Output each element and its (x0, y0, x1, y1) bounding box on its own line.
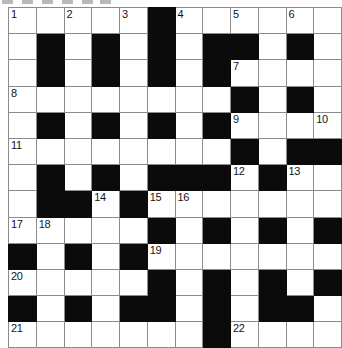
crossword-cell[interactable] (36, 296, 64, 322)
crossword-cell[interactable]: 14 (92, 191, 120, 217)
crossword-cell[interactable] (175, 269, 203, 295)
crossword-cell[interactable] (147, 138, 175, 164)
crossword-cell[interactable] (314, 191, 342, 217)
crossword-cell[interactable] (64, 34, 92, 60)
crossword-cell[interactable] (203, 191, 231, 217)
crossword-cell[interactable] (286, 191, 314, 217)
crossword-cell[interactable] (92, 217, 120, 243)
crossword-cell[interactable] (64, 86, 92, 112)
crossword-cell[interactable]: 21 (9, 322, 37, 348)
crossword-cell[interactable] (36, 138, 64, 164)
crossword-cell[interactable] (36, 269, 64, 295)
crossword-cell[interactable] (175, 112, 203, 138)
crossword-cell[interactable] (258, 138, 286, 164)
crossword-cell[interactable] (231, 217, 259, 243)
crossword-cell[interactable] (120, 60, 148, 86)
crossword-cell[interactable]: 11 (9, 138, 37, 164)
crossword-cell[interactable] (36, 8, 64, 34)
crossword-cell[interactable] (231, 296, 259, 322)
crossword-cell[interactable] (314, 34, 342, 60)
crossword-cell[interactable] (9, 191, 37, 217)
crossword-cell[interactable]: 17 (9, 217, 37, 243)
crossword-cell[interactable] (120, 86, 148, 112)
crossword-cell[interactable] (92, 86, 120, 112)
crossword-cell[interactable] (314, 60, 342, 86)
crossword-cell[interactable]: 4 (175, 8, 203, 34)
crossword-cell[interactable]: 8 (9, 86, 37, 112)
crossword-cell[interactable] (120, 34, 148, 60)
crossword-cell[interactable] (286, 269, 314, 295)
crossword-cell[interactable] (175, 322, 203, 348)
crossword-cell[interactable] (175, 60, 203, 86)
crossword-cell[interactable] (175, 86, 203, 112)
crossword-cell[interactable] (64, 217, 92, 243)
crossword-cell[interactable] (92, 8, 120, 34)
crossword-cell[interactable] (258, 60, 286, 86)
crossword-cell[interactable]: 7 (231, 60, 259, 86)
crossword-cell[interactable]: 22 (231, 322, 259, 348)
crossword-cell[interactable]: 5 (231, 8, 259, 34)
crossword-cell[interactable] (175, 217, 203, 243)
crossword-cell[interactable] (203, 243, 231, 269)
crossword-cell[interactable]: 18 (36, 217, 64, 243)
crossword-cell[interactable] (92, 322, 120, 348)
crossword-cell[interactable] (258, 191, 286, 217)
crossword-cell[interactable] (9, 60, 37, 86)
crossword-cell[interactable] (314, 322, 342, 348)
crossword-cell[interactable] (64, 269, 92, 295)
crossword-cell[interactable] (9, 165, 37, 191)
crossword-cell[interactable] (231, 191, 259, 217)
crossword-cell[interactable] (175, 34, 203, 60)
crossword-cell[interactable]: 6 (286, 8, 314, 34)
crossword-cell[interactable]: 2 (64, 8, 92, 34)
crossword-cell[interactable] (231, 269, 259, 295)
crossword-cell[interactable] (9, 34, 37, 60)
crossword-cell[interactable]: 1 (9, 8, 37, 34)
crossword-cell[interactable] (120, 217, 148, 243)
crossword-cell[interactable] (258, 243, 286, 269)
crossword-cell[interactable]: 15 (147, 191, 175, 217)
crossword-cell[interactable] (286, 112, 314, 138)
crossword-cell[interactable] (64, 112, 92, 138)
crossword-cell[interactable] (175, 296, 203, 322)
crossword-cell[interactable]: 12 (231, 165, 259, 191)
crossword-cell[interactable] (36, 322, 64, 348)
crossword-cell[interactable] (203, 138, 231, 164)
crossword-cell[interactable] (147, 86, 175, 112)
crossword-cell[interactable] (286, 217, 314, 243)
crossword-cell[interactable] (120, 138, 148, 164)
crossword-cell[interactable] (120, 165, 148, 191)
crossword-cell[interactable] (36, 86, 64, 112)
crossword-cell[interactable] (286, 60, 314, 86)
crossword-cell[interactable] (120, 112, 148, 138)
crossword-cell[interactable] (203, 8, 231, 34)
crossword-cell[interactable]: 19 (147, 243, 175, 269)
crossword-cell[interactable] (314, 8, 342, 34)
crossword-cell[interactable] (175, 243, 203, 269)
crossword-cell[interactable] (258, 322, 286, 348)
crossword-cell[interactable] (258, 34, 286, 60)
crossword-cell[interactable]: 10 (314, 112, 342, 138)
crossword-cell[interactable] (314, 243, 342, 269)
crossword-cell[interactable] (36, 243, 64, 269)
crossword-cell[interactable] (258, 8, 286, 34)
crossword-cell[interactable] (286, 243, 314, 269)
crossword-cell[interactable] (92, 269, 120, 295)
crossword-cell[interactable] (203, 86, 231, 112)
crossword-cell[interactable]: 9 (231, 112, 259, 138)
crossword-cell[interactable]: 3 (120, 8, 148, 34)
crossword-cell[interactable] (314, 165, 342, 191)
crossword-cell[interactable] (92, 296, 120, 322)
crossword-cell[interactable] (64, 138, 92, 164)
crossword-cell[interactable] (64, 60, 92, 86)
crossword-cell[interactable] (314, 86, 342, 112)
crossword-cell[interactable]: 13 (286, 165, 314, 191)
crossword-cell[interactable]: 16 (175, 191, 203, 217)
crossword-cell[interactable] (175, 138, 203, 164)
crossword-cell[interactable] (147, 322, 175, 348)
crossword-cell[interactable] (258, 86, 286, 112)
crossword-cell[interactable] (120, 322, 148, 348)
crossword-cell[interactable] (286, 322, 314, 348)
crossword-cell[interactable] (258, 112, 286, 138)
crossword-cell[interactable]: 20 (9, 269, 37, 295)
